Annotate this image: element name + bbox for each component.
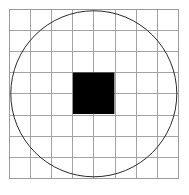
black-square <box>73 73 115 115</box>
figure-container <box>0 0 189 195</box>
geometry-diagram <box>0 0 189 195</box>
